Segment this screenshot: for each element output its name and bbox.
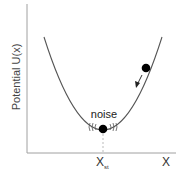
- noise-label: noise: [88, 108, 120, 120]
- rolling-arrow-head-icon: [135, 81, 140, 88]
- ball-on-slope: [142, 64, 151, 73]
- x-axis-label: X: [162, 155, 170, 169]
- ball-at-minimum: [99, 125, 108, 134]
- diagram-graphics: [0, 0, 182, 178]
- y-axis-label: Potential U(x): [9, 27, 23, 127]
- stationary-point-label: Xst: [96, 155, 109, 170]
- stationary-label-main: X: [96, 155, 104, 169]
- potential-well-diagram: Potential U(x) noise Xst X: [0, 0, 182, 178]
- stationary-label-sub: st: [104, 164, 109, 170]
